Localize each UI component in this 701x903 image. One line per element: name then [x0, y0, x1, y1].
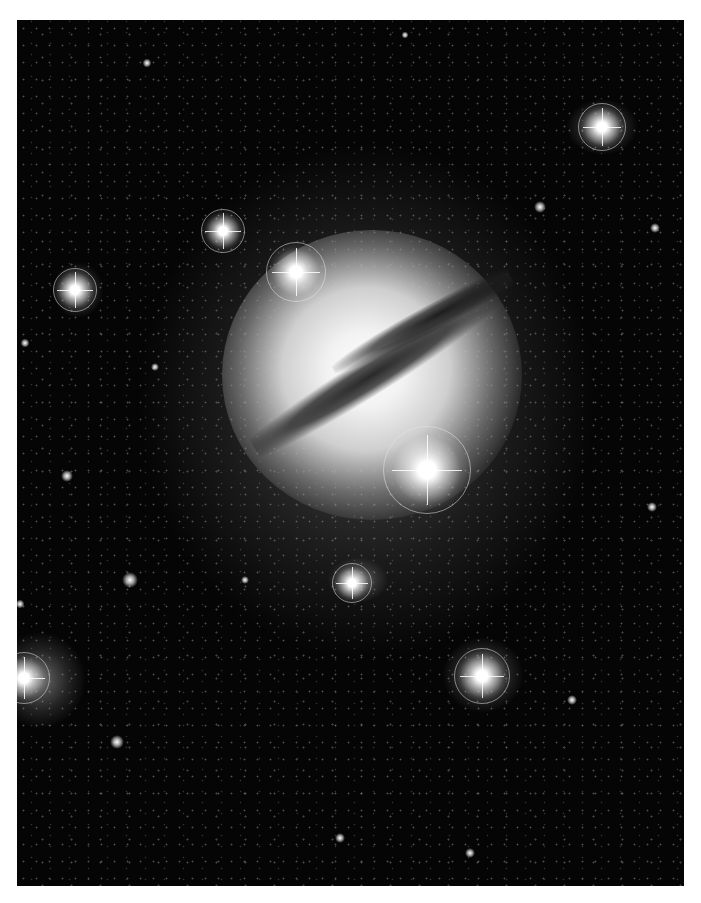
- star: [241, 576, 249, 584]
- star: [61, 470, 73, 482]
- bright-star: [332, 563, 372, 603]
- star: [402, 32, 409, 39]
- bright-star: [201, 209, 245, 253]
- bright-star: [53, 268, 97, 312]
- bright-star: [454, 648, 510, 704]
- star: [650, 223, 660, 233]
- star: [567, 695, 577, 705]
- star: [143, 59, 152, 68]
- star: [335, 833, 345, 843]
- bright-star: [383, 426, 471, 514]
- star: [151, 363, 159, 371]
- star: [647, 502, 657, 512]
- star: [21, 339, 30, 348]
- galaxy-photograph: [17, 20, 684, 886]
- star: [122, 572, 138, 588]
- star: [465, 848, 475, 858]
- bright-star: [578, 103, 626, 151]
- star: [534, 201, 546, 213]
- bright-star: [266, 242, 326, 302]
- star: [110, 735, 124, 749]
